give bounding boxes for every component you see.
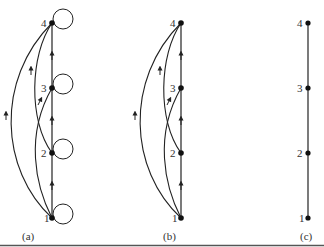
panel-a-graph: 4 3 2 1 (a): [6, 9, 73, 243]
label-c-1: 1: [299, 212, 305, 224]
hasse-diagram-figure: 4 3 2 1 (a) 4 3 2 1 (b) 4 3: [0, 0, 324, 247]
panel-c-graph: 4 3 2 1 (c): [297, 17, 313, 243]
caption-a: (a): [22, 230, 35, 243]
label-a-3: 3: [41, 82, 47, 94]
node-b-1: [178, 215, 184, 221]
node-a-2: [49, 150, 55, 156]
label-b-2: 2: [170, 147, 176, 159]
node-b-3: [178, 85, 184, 91]
label-b-1: 1: [172, 212, 178, 224]
panel-b-graph: 4 3 2 1 (b): [135, 17, 184, 243]
node-b-4: [178, 20, 184, 26]
label-a-4: 4: [41, 17, 47, 29]
caption-c: (c): [300, 230, 313, 243]
label-c-3: 3: [297, 82, 303, 94]
label-b-3: 3: [170, 82, 176, 94]
caption-b: (b): [163, 230, 176, 243]
node-a-1: [49, 215, 55, 221]
node-c-1: [305, 215, 310, 220]
label-c-4: 4: [297, 17, 303, 29]
label-c-2: 2: [297, 147, 303, 159]
node-b-2: [178, 150, 184, 156]
node-a-4: [49, 20, 55, 26]
label-a-1: 1: [44, 212, 50, 224]
node-c-4: [305, 20, 310, 25]
node-c-2: [305, 150, 310, 155]
node-a-3: [49, 85, 55, 91]
label-b-4: 4: [170, 17, 176, 29]
label-a-2: 2: [41, 147, 47, 159]
node-c-3: [305, 85, 310, 90]
